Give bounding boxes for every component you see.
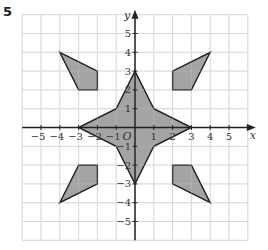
y-tick-label: −4 xyxy=(116,197,131,208)
y-tick-label: −2 xyxy=(116,160,131,171)
origin-label: O xyxy=(122,130,131,143)
coordinate-plane: −5−4−3−2−112345−5−4−3−2−112345Oxy xyxy=(0,0,268,250)
x-tick-label: −5 xyxy=(31,131,46,142)
x-tick-label: 3 xyxy=(188,131,194,142)
x-tick-label: −4 xyxy=(49,131,64,142)
y-tick-label: 5 xyxy=(125,28,131,39)
y-tick-label: 2 xyxy=(125,84,131,95)
x-axis-label: x xyxy=(250,129,257,142)
y-tick-label: −3 xyxy=(116,178,131,189)
x-tick-label: 5 xyxy=(226,131,232,142)
x-tick-label: 2 xyxy=(169,131,175,142)
y-tick-label: −5 xyxy=(116,216,131,227)
y-tick-label: 1 xyxy=(125,103,131,114)
x-tick-label: −2 xyxy=(87,131,102,142)
y-tick-label: 3 xyxy=(125,66,131,77)
x-tick-label: −3 xyxy=(68,131,83,142)
x-tick-label: 1 xyxy=(151,131,157,142)
y-tick-label: 4 xyxy=(125,47,131,58)
y-axis-label: y xyxy=(123,9,131,22)
x-tick-label: 4 xyxy=(207,131,213,142)
